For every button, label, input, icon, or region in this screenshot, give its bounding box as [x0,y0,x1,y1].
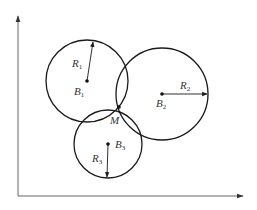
label-r2: R2 [179,79,191,93]
center-point-b3 [106,142,110,146]
label-b3: B3 [115,138,126,152]
label-b2: B2 [156,97,167,111]
label-r3: R3 [91,152,103,166]
trilateration-diagram: R1 B1 R2 B2 B3 R3 M [0,0,257,210]
label-r1: R1 [71,57,83,71]
radius-arrow-r3 [107,144,108,177]
intersection-point-m [117,105,121,109]
label-b1: B1 [74,85,85,99]
center-point-b1 [85,79,89,83]
label-m: M [109,114,120,126]
radius-arrow-r1 [87,42,93,81]
center-point-b2 [160,92,164,96]
